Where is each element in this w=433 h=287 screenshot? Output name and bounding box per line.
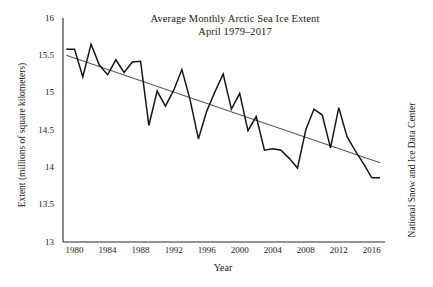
- data-line-sea-ice-extent: [66, 44, 380, 178]
- trend-line: [66, 55, 380, 163]
- plot-area: [0, 0, 433, 287]
- chart-figure: Average Monthly Arctic Sea Ice Extent Ap…: [0, 0, 433, 287]
